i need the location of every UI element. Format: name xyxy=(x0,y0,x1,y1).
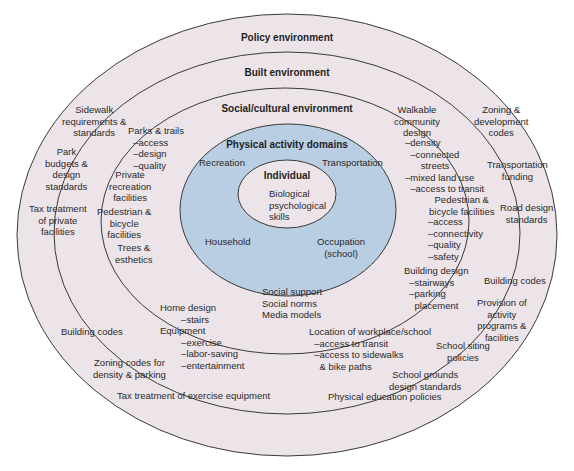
policy-building-codes-right: Building codes xyxy=(484,275,546,287)
domain-recreation: Recreation xyxy=(199,157,245,169)
policy-park-budgets: Park budgets & design standards xyxy=(45,146,88,192)
policy-provision-programs: Provision of activity programs & facilit… xyxy=(477,297,527,343)
built-parks-trails: Parks & trails –access –design –quality xyxy=(128,125,184,171)
built-building-design: Building design –stairways –parking plac… xyxy=(404,265,468,311)
built-private-recreation: Private recreation facilities xyxy=(109,169,151,204)
policy-tax-exercise: Tax treatment of exercise equipment xyxy=(117,390,270,402)
social-environment-title: Social/cultural environment xyxy=(221,103,352,114)
built-walkable-design: Walkable community design xyxy=(394,104,440,139)
individual-title: Individual xyxy=(264,170,311,181)
policy-school-grounds: School grounds design standards xyxy=(389,369,461,392)
built-environment-title: Built environment xyxy=(244,67,329,78)
policy-tax-private: Tax treatment of private facilities xyxy=(29,203,87,238)
policy-zoning-density: Zoning codes for density & parking xyxy=(93,357,166,380)
built-trees-esthetics: Trees & esthetics xyxy=(115,242,153,265)
policy-sidewalk: Sidewalk requirements & standards xyxy=(62,104,126,139)
domain-transportation: Transportation xyxy=(322,157,383,169)
built-workplace-location: Location of workplace/school –access to … xyxy=(309,326,431,372)
policy-environment-title: Policy environment xyxy=(241,32,333,43)
policy-pe-policies: Physical education policies xyxy=(328,391,442,403)
individual-factors: Biological psychological skills xyxy=(269,188,326,223)
social-factors: Social support Social norms Media models xyxy=(262,286,322,321)
policy-building-codes-left: Building codes xyxy=(61,326,123,338)
policy-road-design: Road design standards xyxy=(500,202,553,225)
built-ped-bike-right: Pedestrian & bicycle facilities xyxy=(429,194,494,217)
built-walkable-sub: –density –connected streets –mixed land … xyxy=(405,137,484,195)
domain-household: Household xyxy=(205,236,250,248)
domain-occupation: Occupation (school) xyxy=(317,236,365,259)
built-ped-bike-left: Pedestrian & bicycle facilities xyxy=(97,206,151,241)
policy-zoning-development: Zoning & development codes xyxy=(474,104,528,139)
built-ped-bike-right-sub: –access –connectivity –quality –safety xyxy=(428,216,483,262)
domains-title: Physical activity domains xyxy=(226,139,348,150)
policy-school-siting: School siting policies xyxy=(436,340,490,363)
built-home-design: Home design –stairs Equipment –exercise … xyxy=(160,302,245,371)
policy-transportation-funding: Transportation funding xyxy=(487,159,548,182)
